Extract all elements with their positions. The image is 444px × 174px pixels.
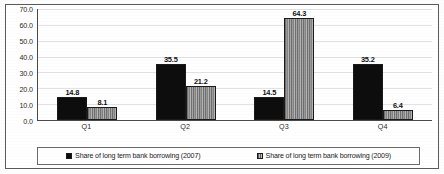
bar-series-1: 14.8 (57, 97, 87, 120)
bar-value-label: 6.4 (393, 101, 403, 110)
plot-region: 14.88.135.521.214.564.335.26.4 (37, 9, 432, 121)
y-axis-tick-label: 50.0 (19, 37, 33, 46)
legend-label: Share of long term bank borrowing (2009) (266, 152, 391, 160)
filled-square-icon (66, 153, 72, 159)
legend-item: Share of long term bank borrowing (2009) (257, 152, 391, 160)
y-axis: 0.010.020.030.040.050.060.070.0 (10, 9, 36, 121)
y-axis-tick-label: 30.0 (19, 69, 33, 78)
bar-value-label: 64.3 (292, 9, 306, 18)
legend-item: Share of long term bank borrowing (2007) (66, 152, 200, 160)
bar-value-label: 35.5 (164, 55, 178, 64)
bar-series-2: 64.3 (284, 18, 314, 120)
bar-groups: 14.88.135.521.214.564.335.26.4 (38, 9, 432, 120)
bar-series-1: 14.5 (254, 97, 284, 120)
y-axis-tick-label: 10.0 (19, 101, 33, 110)
plot-wrapper: 0.010.020.030.040.050.060.070.0 14.88.13… (10, 9, 434, 131)
bar-value-label: 35.2 (361, 55, 375, 64)
x-axis-tick-label: Q3 (235, 122, 334, 131)
bar-value-label: 8.1 (97, 98, 107, 107)
bar-group: 35.521.2 (137, 9, 236, 120)
y-axis-tick-label: 70.0 (19, 5, 33, 14)
chart-legend: Share of long term bank borrowing (2007)… (37, 147, 420, 165)
bar-value-label: 14.8 (65, 88, 79, 97)
striped-square-icon (257, 153, 263, 159)
x-axis: Q1Q2Q3Q4 (37, 122, 432, 131)
bar-group: 14.564.3 (235, 9, 334, 120)
x-axis-tick-label: Q2 (136, 122, 235, 131)
legend-label: Share of long term bank borrowing (2007) (75, 152, 200, 160)
y-axis-tick-label: 40.0 (19, 53, 33, 62)
bar-group: 14.88.1 (38, 9, 137, 120)
bar-value-label: 14.5 (262, 88, 276, 97)
x-axis-tick-label: Q1 (37, 122, 136, 131)
bar-series-2: 21.2 (186, 86, 216, 120)
chart-area: 0.010.020.030.040.050.060.070.0 14.88.13… (10, 9, 434, 165)
x-axis-tick-label: Q4 (333, 122, 432, 131)
y-axis-tick-label: 20.0 (19, 85, 33, 94)
bar-group: 35.26.4 (334, 9, 433, 120)
y-axis-tick-label: 60.0 (19, 21, 33, 30)
bar-value-label: 21.2 (194, 77, 208, 86)
bar-series-2: 8.1 (87, 107, 117, 120)
y-axis-tick-label: 0.0 (23, 117, 33, 126)
chart-figure: 0.010.020.030.040.050.060.070.0 14.88.13… (0, 0, 444, 174)
bar-series-2: 6.4 (383, 110, 413, 120)
bar-series-1: 35.2 (353, 64, 383, 120)
bar-series-1: 35.5 (156, 64, 186, 120)
